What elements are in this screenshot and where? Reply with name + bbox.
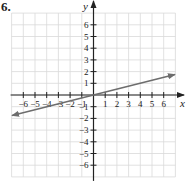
y-tick-label: 5 — [84, 32, 89, 42]
coordinate-plane: xy−6−5−4−3−2−1123456−6−5−4−3−2−1123456 — [0, 0, 188, 184]
x-tick-label: −6 — [19, 99, 29, 109]
y-tick-label: −5 — [79, 149, 89, 159]
y-tick-label: 2 — [84, 67, 89, 77]
x-tick-label: 5 — [150, 99, 155, 109]
y-tick-label: 1 — [84, 78, 89, 88]
y-tick-label: 3 — [84, 55, 89, 65]
y-axis-label: y — [82, 0, 88, 12]
y-tick-label: −1 — [79, 102, 89, 112]
x-tick-label: −5 — [30, 99, 40, 109]
x-tick-label: 4 — [138, 99, 143, 109]
x-tick-label: 6 — [161, 99, 166, 109]
x-tick-label: 2 — [115, 99, 120, 109]
x-tick-label: 1 — [103, 99, 108, 109]
y-tick-label: 4 — [84, 43, 89, 53]
x-axis-label: x — [179, 97, 185, 109]
y-tick-label: 6 — [84, 20, 89, 30]
y-tick-label: −6 — [79, 160, 89, 170]
y-tick-label: −2 — [79, 113, 89, 123]
y-tick-label: −4 — [79, 137, 89, 147]
y-tick-label: −3 — [79, 125, 89, 135]
x-tick-label: 3 — [126, 99, 131, 109]
